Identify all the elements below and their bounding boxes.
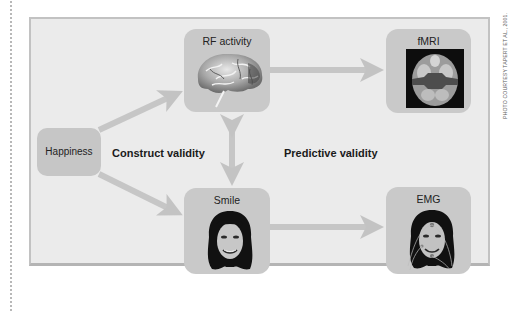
node-fmri-label: fMRI (386, 35, 471, 47)
arrow-happiness-to-smile (99, 174, 172, 210)
face-with-emg-electrodes-icon (406, 208, 458, 272)
smiling-face-photo-icon (204, 209, 256, 273)
node-fmri: fMRI (386, 29, 471, 113)
node-happiness-label: Happiness (37, 146, 101, 157)
fmri-scan-icon (406, 49, 464, 108)
node-emg-label: EMG (386, 193, 471, 205)
node-rf-activity-label: RF activity (184, 35, 270, 47)
node-smile: Smile (184, 188, 270, 274)
construct-validity-label: Construct validity (112, 147, 205, 159)
node-emg: EMG (386, 187, 471, 274)
node-happiness: Happiness (37, 128, 101, 176)
photo-credit: PHOTO COURTESY TAPERT ET AL., 2001. (499, 20, 511, 112)
node-rf-activity: RF activity (184, 29, 270, 112)
predictive-validity-label: Predictive validity (284, 147, 378, 159)
photo-credit-text: PHOTO COURTESY TAPERT ET AL., 2001. (502, 13, 508, 119)
brain-illustration-icon (192, 49, 266, 109)
arrow-happiness-to-rf (99, 96, 172, 130)
node-smile-label: Smile (184, 194, 270, 206)
